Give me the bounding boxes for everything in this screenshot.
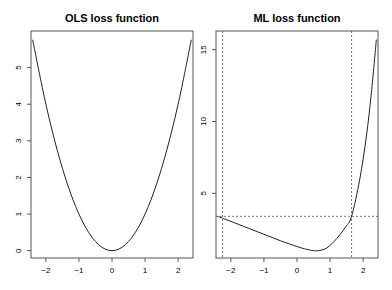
y-tick-label: 15 [199,45,208,54]
chart-ols: OLS loss function−2−1012012345 [14,12,193,275]
chart-title: ML loss function [253,12,340,24]
y-tick-label: 2 [14,175,23,180]
y-tick-label: 5 [199,191,208,196]
x-tick-label: −2 [226,266,236,275]
x-tick-label: −1 [74,266,84,275]
plots-canvas: OLS loss function−2−1012012345ML loss fu… [0,0,392,290]
x-tick-label: 0 [110,266,115,275]
plot-frame [216,31,378,258]
loss-curve [33,40,192,251]
chart-ml: ML loss function−2−101251015 [199,12,378,275]
x-tick-label: −1 [259,266,269,275]
y-tick-label: 4 [14,101,23,106]
x-tick-label: 2 [176,266,181,275]
x-tick-label: 1 [328,266,333,275]
y-tick-label: 5 [14,65,23,70]
x-tick-label: −2 [41,266,51,275]
y-tick-label: 10 [199,117,208,126]
y-tick-label: 3 [14,138,23,143]
y-tick-label: 0 [14,248,23,253]
x-tick-label: 2 [361,266,366,275]
y-tick-label: 1 [14,211,23,216]
x-tick-label: 0 [295,266,300,275]
chart-title: OLS loss function [65,12,159,24]
x-tick-label: 1 [143,266,148,275]
loss-curve [218,40,377,251]
